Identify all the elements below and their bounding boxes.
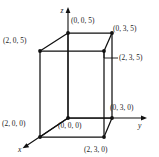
vertex-label-z-corner: (0, 0, 5) (71, 16, 95, 25)
figure-container: z y x (0, 0, 5) (0, 3, 5) (2, 0, 5) (2, … (0, 0, 159, 157)
vertex-label-xy-corner: (2, 3, 0) (84, 145, 108, 154)
z-axis-label: z (60, 6, 64, 15)
edge-xyz-corner-to-yz-corner (104, 33, 112, 51)
vertex-dot-xz-corner (38, 49, 42, 53)
vertex-label-xz-corner: (2, 0, 5) (3, 36, 27, 45)
vertex-dot-z-corner (66, 31, 70, 35)
edge-xy-corner-to-y-corner (104, 118, 112, 137)
y-axis-arrowhead (141, 116, 147, 121)
x-axis-label: x (17, 145, 22, 154)
vertex-dot-y-corner (110, 116, 114, 120)
leader-line-xyz-corner (104, 51, 118, 58)
z-axis-arrowhead (66, 7, 71, 13)
vertex-dot-origin (66, 116, 70, 120)
edge-z-corner-to-xz-corner (40, 33, 68, 51)
three-d-box-figure: z y x (0, 0, 5) (0, 3, 5) (2, 0, 5) (2, … (0, 0, 159, 157)
vertex-label-y-corner: (0, 3, 0) (110, 103, 134, 112)
vertex-label-x-corner: (2, 0, 0) (2, 119, 26, 128)
vertex-dot-xy-corner (102, 135, 106, 139)
vertex-label-xyz-corner: (2, 3, 5) (119, 53, 143, 62)
vertex-dot-x-corner (38, 135, 42, 139)
vertex-label-yz-corner: (0, 3, 5) (113, 24, 137, 33)
y-axis-label: y (137, 121, 142, 130)
vertex-label-origin: (0, 0, 0) (58, 121, 82, 130)
